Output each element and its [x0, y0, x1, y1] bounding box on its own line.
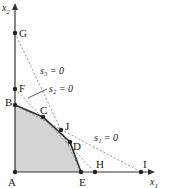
point-A: [13, 170, 17, 174]
constraint-label-s1: s₁ = 0: [94, 132, 118, 143]
label-B: B: [5, 96, 12, 108]
label-A: A: [8, 176, 16, 188]
label-J: J: [65, 120, 70, 132]
point-E: [79, 170, 83, 174]
label-G: G: [19, 27, 27, 39]
constraint-label-s3: s₃ = 0: [40, 65, 64, 76]
feasible-region: [15, 105, 81, 172]
x1-axis-label: x1: [149, 176, 158, 188]
label-H: H: [96, 158, 104, 170]
label-C: C: [40, 104, 47, 116]
x2-axis-label: x2: [1, 2, 10, 16]
lp-feasible-region-diagram: x2 x1 A B C D E F G H I J s₃ = 0 s₂ = 0 …: [0, 0, 169, 188]
constraint-label-s2: s₂ = 0: [49, 83, 73, 94]
x2-axis-arrow-icon: [12, 3, 18, 10]
s2-leader-line: [28, 89, 47, 98]
point-H: [93, 170, 97, 174]
point-J: [59, 128, 63, 132]
point-G: [13, 31, 17, 35]
point-I: [139, 170, 143, 174]
label-I: I: [143, 158, 147, 170]
label-E: E: [79, 176, 86, 188]
x1-axis-arrow-icon: [148, 169, 155, 175]
point-B: [13, 103, 17, 107]
label-D: D: [73, 140, 81, 152]
label-F: F: [19, 82, 25, 94]
point-F: [13, 87, 17, 91]
point-D: [68, 140, 72, 144]
